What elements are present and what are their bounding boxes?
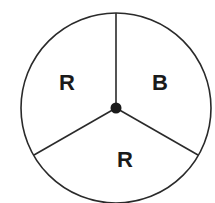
section-label-bottom: R bbox=[117, 147, 133, 172]
spinner-pivot bbox=[111, 103, 122, 114]
section-label-upper-right: B bbox=[152, 70, 168, 95]
section-label-upper-left: R bbox=[59, 70, 75, 95]
spinner-diagram: R B R bbox=[0, 0, 215, 203]
